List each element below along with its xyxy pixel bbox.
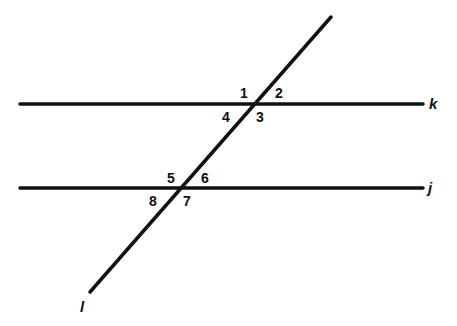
angle-label-3: 3 (256, 110, 264, 124)
line-label-k: k (429, 96, 437, 111)
angle-label-2: 2 (275, 86, 283, 100)
angle-label-5: 5 (167, 171, 175, 185)
diagram-lines (0, 0, 457, 326)
line-label-j: j (428, 180, 432, 195)
transversal-l (90, 17, 331, 292)
diagram-canvas: 1 2 3 4 5 6 7 8 k j l (0, 0, 457, 326)
angle-label-6: 6 (201, 171, 209, 185)
angle-label-1: 1 (240, 86, 248, 100)
line-label-l: l (80, 299, 84, 314)
angle-label-4: 4 (222, 110, 230, 124)
angle-label-7: 7 (183, 194, 191, 208)
angle-label-8: 8 (149, 194, 157, 208)
